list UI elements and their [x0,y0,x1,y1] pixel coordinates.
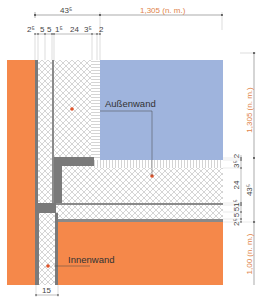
dim-rseg-0: 2 [232,153,241,158]
dim-interior-wall: 15 [42,286,51,295]
dim-right-total: 43⁵ [245,184,254,196]
dim-seg-5: 3⁵ [84,25,92,34]
tick-layer-horizontal [92,160,223,168]
exterior-wall-area [100,60,223,160]
thin-insulation [54,205,223,219]
corner-mortar-h [58,157,94,166]
horizontal-insulation [54,168,223,204]
interior-wall-label: Innenwand [68,254,114,265]
interior-wall-insulation [39,213,55,285]
dim-rseg-3: 1⁵ [232,199,241,207]
wall-detail-drawing: Außenwand Innenwand 43⁵ 1,305 (n. m.) 2⁵… [0,0,265,301]
dim-top-right: 1,305 (n. m.) [140,6,186,15]
interior-wall-grey-left [36,213,39,285]
interior-wall-grey-right [55,213,58,285]
corner-mortar-v [54,157,62,204]
dim-rseg-4: 5 [232,206,241,211]
marker-dot [70,107,74,111]
dim-seg-3: 1⁵ [55,25,63,34]
dim-seg-2: 5 [47,25,52,34]
dim-rseg-1: 3⁵ [232,160,241,168]
exterior-wall-label: Außenwand [105,98,156,109]
dim-right-bottom: 1,00 (n. m.) [245,233,254,274]
lower-mortar [38,203,56,213]
dim-right-top: 1,305 (n. m.) [245,87,254,133]
dim-top-overall: 43⁵ [60,6,72,15]
dim-rseg-6: 2⁵ [232,218,241,226]
left-masonry [7,60,35,285]
dim-seg-1: 5 [40,25,45,34]
dim-seg-4: 24 [70,25,79,34]
dim-seg-6: 2 [99,25,104,34]
dim-seg-0: 2⁵ [27,25,35,34]
dim-rseg-2: 24 [232,180,241,189]
separator-line [54,203,223,205]
marker-dot [46,264,50,268]
bottom-grey [56,219,223,222]
dim-rseg-5: 5 [232,212,241,217]
